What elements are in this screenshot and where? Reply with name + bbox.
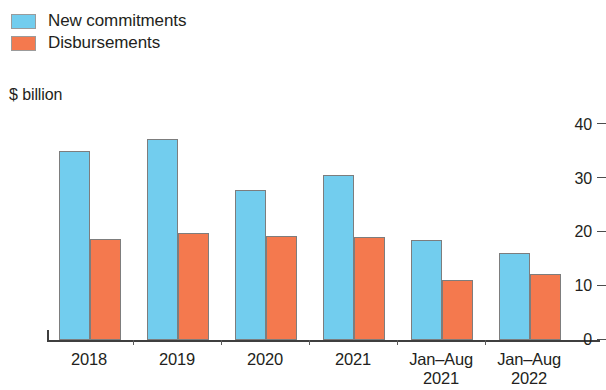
bar-disbursements	[354, 237, 385, 340]
legend-label-new-commitments: New commitments	[48, 12, 186, 30]
bar-new-commitments	[235, 190, 266, 340]
bar-new-commitments	[499, 253, 530, 340]
y-axis-tick-label: 40	[575, 117, 592, 133]
chart-legend: New commitments Disbursements	[11, 10, 186, 54]
bar-disbursements	[178, 233, 209, 340]
bar-disbursements	[442, 280, 473, 340]
y-axis-tick-label: 20	[575, 224, 592, 240]
y-axis-tick-mark	[597, 339, 606, 340]
x-axis-group-label: Jan–Aug 2022	[485, 350, 573, 388]
x-axis-line	[47, 340, 600, 342]
y-axis-unit-caption: $ billion	[9, 86, 62, 104]
y-axis-tick-label: 10	[575, 278, 592, 294]
bar-disbursements	[530, 274, 561, 340]
y-axis-tick-mark	[597, 123, 606, 124]
bar-disbursements	[90, 239, 121, 340]
y-axis-tick-mark	[597, 177, 606, 178]
x-axis-tick-mark	[397, 340, 398, 345]
x-axis-group-label: 2021	[309, 350, 397, 369]
x-axis-group-label: Jan–Aug 2021	[397, 350, 485, 388]
x-axis-tick-mark	[309, 340, 310, 345]
x-axis-group-label: 2019	[133, 350, 221, 369]
plot-inner: 4030201002018201920202021Jan–Aug 2021Jan…	[0, 110, 606, 390]
x-axis-group-label: 2018	[45, 350, 133, 369]
x-axis-tick-mark	[221, 340, 222, 345]
x-axis-tick-mark	[485, 340, 486, 345]
x-axis-group-label: 2020	[221, 350, 309, 369]
y-axis-tick-mark	[597, 231, 606, 232]
bar-new-commitments	[59, 151, 90, 340]
y-axis-tick-mark	[597, 285, 606, 286]
bar-chart-figure: New commitments Disbursements $ billion …	[0, 0, 606, 390]
y-axis-tick-label: 0	[583, 332, 592, 348]
y-axis-tick-label: 30	[575, 171, 592, 187]
legend-label-disbursements: Disbursements	[48, 34, 160, 52]
legend-item-disbursements: Disbursements	[11, 32, 186, 54]
legend-swatch-new-commitments	[11, 14, 36, 29]
bar-disbursements	[266, 236, 297, 340]
bar-new-commitments	[147, 139, 178, 340]
plot-area: 4030201002018201920202021Jan–Aug 2021Jan…	[0, 110, 606, 390]
legend-item-new-commitments: New commitments	[11, 10, 186, 32]
bar-new-commitments	[323, 175, 354, 340]
bar-new-commitments	[411, 240, 442, 340]
x-axis-tick-mark	[133, 340, 134, 345]
legend-swatch-disbursements	[11, 36, 36, 51]
